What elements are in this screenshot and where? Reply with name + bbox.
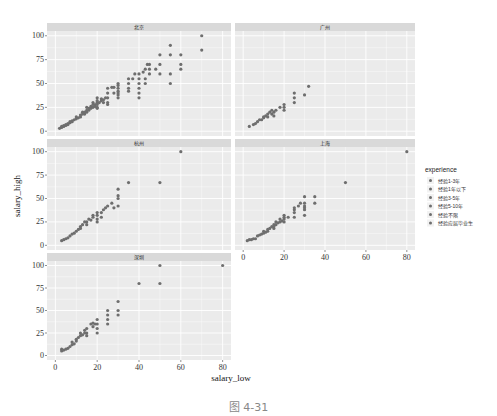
data-point: [158, 53, 161, 56]
legend-label: 经验应届毕业生: [438, 220, 473, 227]
y-tick-label: 100: [32, 31, 44, 40]
y-tick-label: 25: [36, 103, 44, 112]
data-point: [144, 77, 147, 80]
data-point: [100, 211, 103, 214]
x-tick-label: 40: [321, 253, 329, 262]
x-tick-label: 60: [177, 363, 185, 372]
data-point: [179, 63, 182, 66]
data-point: [179, 53, 182, 56]
legend-label: 经验5-10年: [438, 203, 463, 210]
y-tick-label: 100: [32, 147, 44, 156]
data-point: [96, 214, 99, 217]
data-point: [112, 86, 115, 89]
y-tick-label: 75: [36, 55, 44, 64]
data-point: [158, 282, 161, 285]
data-point: [169, 72, 172, 75]
data-point: [137, 282, 140, 285]
data-point: [116, 300, 119, 303]
data-point: [116, 194, 119, 197]
facet-label: 深圳: [134, 254, 144, 261]
data-point: [81, 223, 84, 226]
data-point: [112, 206, 115, 209]
legend-key: [429, 179, 432, 182]
data-point: [116, 197, 119, 200]
y-tick-label: 25: [36, 329, 44, 338]
data-point: [282, 220, 285, 223]
data-point: [293, 101, 296, 104]
x-axis-title: salary_low: [211, 373, 251, 383]
data-point: [200, 34, 203, 37]
legend-label: 经验3-5年: [438, 195, 460, 202]
data-point: [274, 109, 277, 112]
data-point: [169, 44, 172, 47]
legend-label: 经验1年以下: [438, 186, 466, 193]
legend-title: experience: [425, 166, 457, 174]
data-point: [221, 264, 224, 267]
y-tick-label: 0: [40, 127, 44, 136]
data-point: [158, 72, 161, 75]
data-point: [297, 204, 300, 207]
data-point: [91, 325, 94, 328]
data-point: [85, 331, 88, 334]
data-point: [112, 91, 115, 94]
data-point: [106, 313, 109, 316]
data-point: [144, 82, 147, 85]
data-point: [169, 53, 172, 56]
data-point: [148, 72, 151, 75]
data-point: [158, 264, 161, 267]
data-point: [89, 218, 92, 221]
data-point: [282, 214, 285, 217]
data-point: [106, 101, 109, 104]
data-point: [127, 181, 130, 184]
data-point: [158, 63, 161, 66]
data-point: [137, 96, 140, 99]
data-point: [313, 195, 316, 198]
data-point: [116, 82, 119, 85]
data-point: [127, 82, 130, 85]
data-point: [313, 202, 316, 205]
data-point: [116, 313, 119, 316]
data-point: [96, 318, 99, 321]
data-point: [200, 48, 203, 51]
legend-key: [429, 213, 432, 216]
data-point: [85, 220, 88, 223]
data-point: [154, 68, 157, 71]
data-point: [254, 237, 257, 240]
data-point: [299, 202, 302, 205]
data-point: [106, 309, 109, 312]
data-point: [106, 96, 109, 99]
facet-label: 北京: [134, 24, 144, 31]
data-point: [293, 206, 296, 209]
data-point: [96, 322, 99, 325]
data-point: [116, 188, 119, 191]
data-point: [96, 218, 99, 221]
data-point: [85, 223, 88, 226]
y-tick-label: 50: [36, 306, 44, 315]
data-point: [96, 327, 99, 330]
y-tick-label: 75: [36, 284, 44, 293]
data-point: [307, 85, 310, 88]
y-tick-label: 50: [36, 194, 44, 203]
x-tick-label: 80: [219, 363, 227, 372]
data-point: [131, 77, 134, 80]
figure-caption: 图 4-31: [0, 398, 497, 414]
data-point: [169, 82, 172, 85]
data-point: [278, 106, 281, 109]
data-point: [303, 93, 306, 96]
data-point: [293, 96, 296, 99]
legend-label: 经验1-3年: [438, 178, 460, 185]
data-point: [266, 115, 269, 118]
data-point: [91, 214, 94, 217]
data-point: [96, 211, 99, 214]
data-point: [137, 72, 140, 75]
data-point: [133, 72, 136, 75]
data-point: [287, 216, 290, 219]
x-tick-label: 60: [362, 253, 370, 262]
data-point: [127, 87, 130, 90]
data-point: [303, 204, 306, 207]
legend-key: [429, 196, 432, 199]
y-tick-label: 0: [40, 351, 44, 360]
data-point: [116, 87, 119, 90]
legend-key: [429, 222, 432, 225]
data-point: [282, 109, 285, 112]
